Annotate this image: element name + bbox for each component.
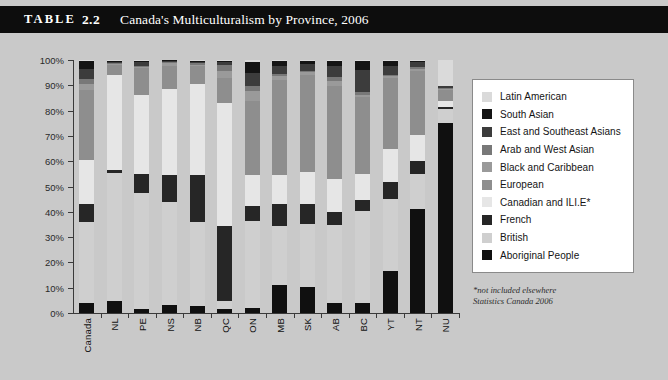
x-tick-label-sk: SK bbox=[302, 318, 313, 331]
table-number: 2.2 bbox=[82, 12, 100, 28]
legend-item[interactable]: Aboriginal People bbox=[482, 246, 625, 264]
bar-qc[interactable] bbox=[217, 60, 232, 313]
bar-segment bbox=[272, 66, 287, 74]
y-tick-label: 20% bbox=[45, 257, 64, 268]
table-label: TABLE bbox=[24, 12, 76, 27]
legend-swatch-icon bbox=[482, 109, 492, 119]
x-tick-label-ab: AB bbox=[330, 318, 341, 331]
bar-bc[interactable] bbox=[355, 60, 370, 313]
bar-segment bbox=[438, 109, 453, 123]
legend-label: Arab and West Asian bbox=[500, 144, 594, 155]
bar-segment bbox=[79, 61, 94, 69]
bar-segment bbox=[79, 204, 94, 222]
bar-segment bbox=[327, 225, 342, 302]
bar-nt[interactable] bbox=[410, 60, 425, 313]
bar-canada[interactable] bbox=[79, 60, 94, 313]
x-tick-label-nt: NT bbox=[413, 318, 424, 331]
bar-segment bbox=[383, 149, 398, 183]
y-tick-label: 40% bbox=[45, 206, 64, 217]
legend-swatch-icon bbox=[482, 250, 492, 260]
bar-nb[interactable] bbox=[190, 60, 205, 313]
bar-segment bbox=[162, 175, 177, 201]
bar-segment bbox=[300, 224, 315, 286]
legend-label: Aboriginal People bbox=[500, 250, 579, 261]
bar-sk[interactable] bbox=[300, 60, 315, 313]
legend-item[interactable]: European bbox=[482, 176, 625, 194]
legend-label: East and Southeast Asians bbox=[500, 126, 621, 137]
bar-segment bbox=[79, 303, 94, 313]
x-tick-label-nb: NB bbox=[192, 318, 203, 332]
bar-segment bbox=[107, 65, 122, 76]
bar-segment bbox=[272, 226, 287, 285]
legend-item[interactable]: South Asian bbox=[482, 106, 625, 124]
bar-segment bbox=[383, 182, 398, 199]
legend-swatch-icon bbox=[482, 233, 492, 243]
legend-item[interactable]: French bbox=[482, 211, 625, 229]
bar-segment bbox=[217, 103, 232, 226]
bar-segment bbox=[107, 173, 122, 301]
bar-yt[interactable] bbox=[383, 60, 398, 313]
bar-segment bbox=[134, 193, 149, 309]
x-axis-labels: CanadaNLPENSNBQCONMBSKABBCYTNTNU bbox=[0, 316, 668, 376]
y-tick-label: 70% bbox=[45, 130, 64, 141]
legend-swatch-icon bbox=[482, 145, 492, 155]
bar-segment bbox=[272, 204, 287, 226]
bar-mb[interactable] bbox=[272, 60, 287, 313]
bar-nl[interactable] bbox=[107, 60, 122, 313]
bar-segment bbox=[190, 175, 205, 222]
legend-swatch-icon bbox=[482, 215, 492, 225]
y-tick bbox=[68, 313, 73, 314]
bar-pe[interactable] bbox=[134, 60, 149, 313]
bar-on[interactable] bbox=[245, 60, 260, 313]
bar-segment bbox=[355, 174, 370, 200]
x-tick-label-mb: MB bbox=[275, 318, 286, 333]
y-axis-labels: 0%10%20%30%40%50%60%70%80%90%100% bbox=[0, 60, 64, 314]
y-tick-label: 80% bbox=[45, 105, 64, 116]
bar-segment bbox=[162, 305, 177, 313]
legend-item[interactable]: East and Southeast Asians bbox=[482, 123, 625, 141]
bar-ab[interactable] bbox=[327, 60, 342, 313]
bar-segment bbox=[300, 64, 315, 71]
y-tick-label: 100% bbox=[40, 55, 64, 66]
bar-segment bbox=[245, 308, 260, 313]
bar-segment bbox=[327, 303, 342, 313]
legend-item[interactable]: Latin American bbox=[482, 88, 625, 106]
chart-footnote: *not included elsewhere Statistics Canad… bbox=[473, 285, 653, 308]
bar-segment bbox=[383, 78, 398, 149]
y-tick-label: 90% bbox=[45, 80, 64, 91]
legend-swatch-icon bbox=[482, 127, 492, 137]
y-tick-label: 60% bbox=[45, 156, 64, 167]
bar-segment bbox=[383, 66, 398, 75]
bar-ns[interactable] bbox=[162, 60, 177, 313]
bar-segment bbox=[79, 69, 94, 80]
bar-segment bbox=[300, 204, 315, 224]
bar-segment bbox=[190, 84, 205, 175]
bar-segment bbox=[300, 287, 315, 313]
bar-segment bbox=[272, 175, 287, 204]
legend-item[interactable]: British bbox=[482, 229, 625, 247]
bar-segment bbox=[190, 66, 205, 85]
bar-segment bbox=[79, 90, 94, 159]
x-tick-label-nu: NU bbox=[440, 318, 451, 332]
chart-legend: Latin AmericanSouth AsianEast and Southe… bbox=[472, 79, 634, 273]
bar-segment bbox=[355, 200, 370, 211]
legend-label: Black and Caribbean bbox=[500, 162, 594, 173]
bar-segment bbox=[383, 199, 398, 271]
legend-item[interactable]: Arab and West Asian bbox=[482, 141, 625, 159]
bar-segment bbox=[162, 66, 177, 89]
bar-segment bbox=[245, 101, 260, 175]
legend-item[interactable]: Black and Caribbean bbox=[482, 158, 625, 176]
legend-item[interactable]: Canadian and ILI.E* bbox=[482, 194, 625, 212]
x-tick-label-qc: QC bbox=[220, 318, 231, 333]
y-tick-label: 30% bbox=[45, 232, 64, 243]
bar-segment bbox=[134, 68, 149, 96]
bar-segment bbox=[438, 60, 453, 86]
bar-segment bbox=[245, 91, 260, 101]
footnote-line-2: Statistics Canada 2006 bbox=[473, 296, 653, 307]
bar-nu[interactable] bbox=[438, 60, 453, 313]
x-tick-label-bc: BC bbox=[358, 318, 369, 332]
bar-segment bbox=[217, 309, 232, 313]
y-tick-label: 10% bbox=[45, 282, 64, 293]
figure-root: TABLE 2.2 Canada's Multiculturalism by P… bbox=[0, 0, 668, 380]
x-tick-label-canada: Canada bbox=[82, 318, 93, 352]
